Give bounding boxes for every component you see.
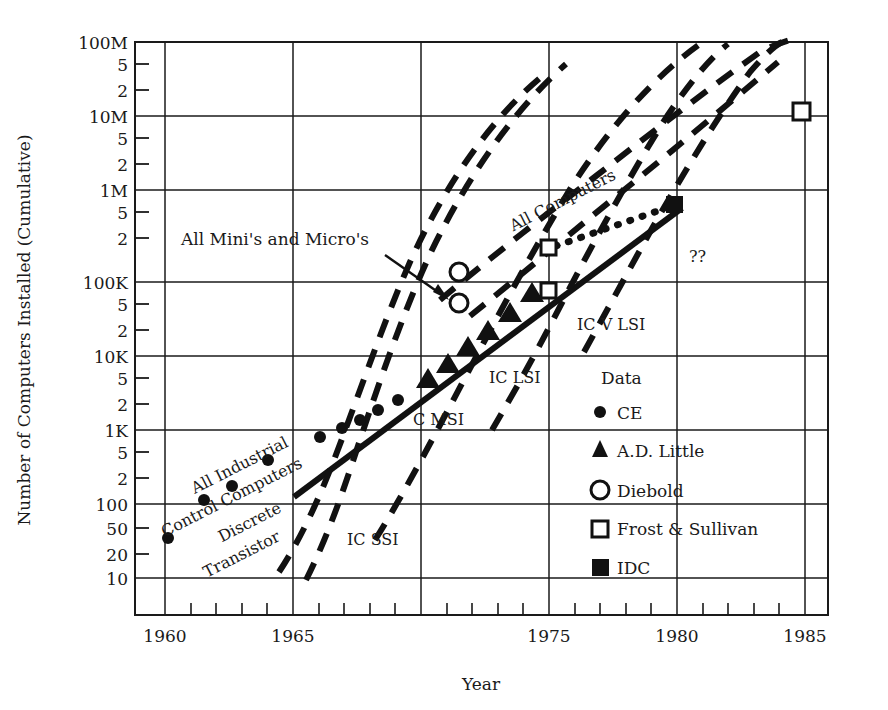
y-axis-title-text: Number of Computers Installed (Cumulativ… — [14, 134, 34, 525]
y-axis-title: Number of Computers Installed (Cumulativ… — [14, 134, 34, 525]
data-point-frost-sullivan — [541, 283, 556, 298]
y-tick-label: 10K — [94, 347, 129, 367]
y-tick-label: 5 — [117, 369, 128, 389]
data-point-ce — [314, 431, 326, 443]
x-tick-labels: 1960 1965 1975 1980 1985 — [143, 626, 826, 646]
y-tick-label: 20 — [106, 545, 128, 565]
y-tick-label: 10M — [89, 107, 128, 127]
y-tick-label: 1K — [104, 421, 128, 441]
legend-label: Diebold — [617, 481, 684, 501]
data-point-ce — [392, 394, 404, 406]
data-point-diebold — [450, 263, 468, 281]
legend: Data CE A.D. Little Diebold Frost & Sull… — [591, 368, 758, 578]
y-tick-labels: 100M 5 2 10M 5 2 1M 5 2 100K 5 2 10K 5 2… — [78, 33, 128, 589]
data-point-ad-little — [476, 320, 500, 340]
annotation-all-minis-and-micros: All Mini's and Micro's — [180, 229, 369, 249]
y-tick-label: 100M — [78, 33, 128, 53]
data-point-frost-sullivan — [793, 103, 810, 120]
legend-label: IDC — [617, 558, 650, 578]
y-tick-label: 10 — [106, 569, 128, 589]
curve-label-ic-lsi: IC LSI — [489, 368, 541, 387]
y-gridlines — [135, 116, 828, 578]
data-point-frost-sullivan — [541, 240, 556, 255]
x-tick-label: 1980 — [655, 626, 698, 646]
data-point-ce — [336, 422, 348, 434]
legend-marker-open-circle-icon — [591, 481, 609, 499]
y-tick-label: 5 — [117, 129, 128, 149]
legend-label: A.D. Little — [616, 441, 704, 461]
legend-label: Frost & Sullivan — [617, 519, 758, 539]
data-point-idc — [666, 196, 683, 213]
legend-label: CE — [617, 403, 642, 423]
y-tick-label: 5 — [117, 295, 128, 315]
y-tick-label: 2 — [117, 155, 128, 175]
y-tick-label: 50 — [106, 519, 128, 539]
chart-svg: Number of Computers Installed (Cumulativ… — [0, 0, 888, 710]
y-tick-label: 1M — [100, 181, 128, 201]
series-curves — [279, 38, 798, 580]
chart-root: Number of Computers Installed (Cumulativ… — [0, 0, 888, 710]
series-discrete-transistor — [279, 78, 540, 572]
curve-label-ic-ssi: IC SSI — [347, 530, 399, 549]
y-tick-label: 5 — [117, 443, 128, 463]
y-tick-label: 2 — [117, 229, 128, 249]
y-tick-label: 100K — [83, 273, 128, 293]
y-tick-label: 2 — [117, 395, 128, 415]
x-axis-title-text: Year — [461, 674, 501, 694]
legend-marker-filled-circle-icon — [594, 406, 606, 418]
x-tick-label: 1965 — [271, 626, 314, 646]
legend-marker-filled-triangle-icon — [592, 440, 608, 457]
data-point-ad-little — [416, 368, 440, 388]
curve-label-ic-v-lsi: IC V LSI — [577, 315, 645, 334]
curve-label-question: ?? — [689, 247, 706, 266]
y-tick-label: 2 — [117, 469, 128, 489]
x-tick-label: 1975 — [527, 626, 570, 646]
x-minor-ticks — [191, 603, 779, 615]
data-point-diebold — [450, 294, 468, 312]
y-tick-label: 5 — [117, 55, 128, 75]
series-all-computers — [440, 38, 798, 300]
y-tick-label: 100 — [96, 495, 128, 515]
y-tick-label: 2 — [117, 321, 128, 341]
y-minor-ticks — [135, 64, 149, 554]
datapoints-idc — [666, 196, 683, 213]
legend-marker-open-square-icon — [592, 521, 608, 537]
y-tick-label: 5 — [117, 203, 128, 223]
y-tick-label: 2 — [117, 81, 128, 101]
x-tick-label: 1985 — [783, 626, 826, 646]
curve-label-c-msi: C MSI — [413, 410, 464, 429]
data-point-ce — [354, 414, 366, 426]
legend-marker-filled-square-icon — [592, 559, 609, 576]
data-point-ce — [372, 404, 384, 416]
data-point-ad-little — [456, 336, 480, 356]
x-tick-label: 1960 — [143, 626, 186, 646]
legend-title: Data — [601, 368, 642, 388]
